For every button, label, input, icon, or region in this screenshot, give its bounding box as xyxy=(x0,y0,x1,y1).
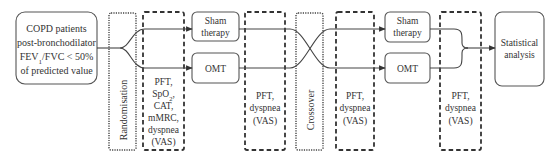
baseline-item-mmrc: mMRC, xyxy=(148,113,179,123)
connector-period2-omt-merge xyxy=(430,48,468,68)
spo-comma: , xyxy=(172,89,174,99)
period1-sham-line-2: therapy xyxy=(201,28,230,38)
population-line-1: COPD patients xyxy=(26,23,86,34)
assessment-before-period2-box: PFT, dyspnea (VAS) xyxy=(336,12,374,150)
baseline-item-dyspnea: dyspnea xyxy=(148,125,180,135)
period2-omt-box: OMT xyxy=(385,53,430,83)
period1-sham-box: Sham therapy xyxy=(192,12,239,41)
arrow-omt-crossover-to-sham xyxy=(239,29,385,68)
statistical-analysis-line-2: analysis xyxy=(504,50,535,60)
fev-ratio-threshold: /FVC < 50% xyxy=(42,51,93,62)
assessment-after-period2-box-outline xyxy=(440,12,481,150)
assessment-after-period2-box: PFT, dyspnea (VAS) xyxy=(440,12,481,150)
baseline-assessment-box: PFT, SpO2, CAT, mMRC, dyspnea (VAS) xyxy=(143,12,184,150)
period2-sham-box: Sham therapy xyxy=(385,12,430,42)
assessment-before-period2-dyspnea: dyspnea xyxy=(339,103,371,113)
assessment-after-period1-vas: (VAS) xyxy=(253,116,277,127)
assessment-after-period2-vas: (VAS) xyxy=(448,116,472,127)
assessment-after-period2-dyspnea: dyspnea xyxy=(445,103,477,113)
period2-sham-line-2: therapy xyxy=(393,28,422,38)
assessment-after-period1-pft: PFT, xyxy=(256,91,274,101)
population-line-4: of predicted value xyxy=(20,65,93,76)
assessment-before-period2-pft: PFT, xyxy=(346,91,364,101)
crossover-study-flowchart: COPD patients post-bronchodilator FEV1/F… xyxy=(0,0,560,158)
baseline-item-pft: PFT, xyxy=(154,77,172,87)
population-line-2: post-bronchodilator xyxy=(17,37,97,48)
arrow-to-period1-sham xyxy=(120,29,192,48)
statistical-analysis-line-1: Statistical xyxy=(501,38,539,48)
period1-sham-line-1: Sham xyxy=(205,16,227,26)
randomisation-box: Randomisation xyxy=(109,13,136,150)
population-box: COPD patients post-bronchodilator FEV1/F… xyxy=(16,12,97,84)
statistical-analysis-box: Statistical analysis xyxy=(495,12,544,86)
assessment-after-period1-box-outline xyxy=(245,12,285,150)
arrow-to-period1-omt xyxy=(120,48,192,68)
arrow-sham-crossover-to-omt xyxy=(239,29,385,68)
period1-omt-box: OMT xyxy=(192,53,239,83)
assessment-before-period2-box-outline xyxy=(336,12,374,150)
assessment-after-period1-box: PFT, dyspnea (VAS) xyxy=(245,12,285,150)
baseline-item-vas: (VAS) xyxy=(151,137,175,148)
period1-omt-label: OMT xyxy=(205,64,226,74)
crossover-box: Crossover xyxy=(296,13,323,150)
fev-label: FEV xyxy=(20,51,40,62)
statistical-analysis-box-outline xyxy=(495,12,544,86)
spo-label: SpO xyxy=(152,89,169,99)
baseline-item-spo2: SpO2, xyxy=(152,89,175,102)
assessment-after-period2-pft: PFT, xyxy=(451,91,469,101)
baseline-item-cat: CAT, xyxy=(154,101,174,111)
assessment-before-period2-vas: (VAS) xyxy=(343,116,367,127)
period2-sham-line-1: Sham xyxy=(397,16,419,26)
assessment-after-period1-dyspnea: dyspnea xyxy=(249,103,281,113)
crossover-label: Crossover xyxy=(305,89,316,130)
randomisation-label: Randomisation xyxy=(118,80,129,141)
connector-period2-sham-merge xyxy=(430,29,468,48)
period2-omt-label: OMT xyxy=(397,64,418,74)
